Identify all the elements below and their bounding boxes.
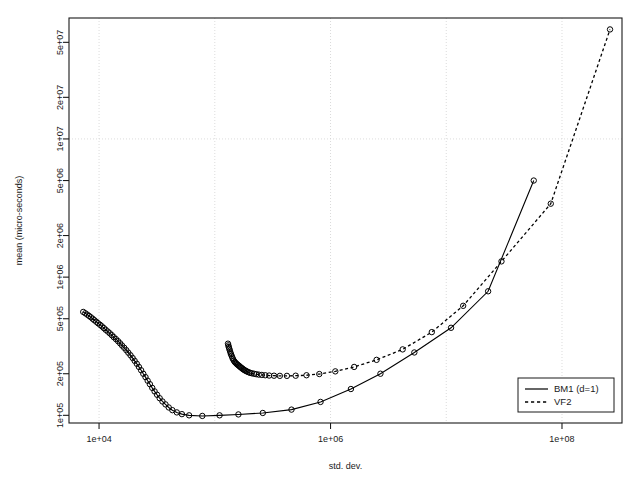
y-tick-label-7: 2e+07 xyxy=(55,85,65,110)
x-tick-label-2: 1e+08 xyxy=(549,434,574,444)
y-tick-label-0: 1e+05 xyxy=(55,403,65,428)
legend[interactable]: BM1 (d=1)VF2 xyxy=(518,378,614,412)
y-tick-label-2: 5e+05 xyxy=(55,306,65,331)
scatter-plot: 1e+052e+055e+051e+062e+065e+061e+072e+07… xyxy=(0,0,644,491)
x-axis-label: std. dev. xyxy=(329,461,362,471)
x-tick-label-1: 1e+06 xyxy=(318,434,343,444)
legend-label-0[interactable]: BM1 (d=1) xyxy=(554,383,599,394)
y-tick-label-6: 1e+07 xyxy=(55,126,65,151)
y-tick-label-5: 5e+06 xyxy=(55,168,65,193)
legend-label-1[interactable]: VF2 xyxy=(554,396,571,407)
chart-container: 1e+052e+055e+051e+062e+065e+061e+072e+07… xyxy=(0,0,644,491)
y-tick-label-1: 2e+05 xyxy=(55,361,65,386)
y-tick-label-4: 2e+06 xyxy=(55,223,65,248)
plot-background xyxy=(0,0,644,491)
x-tick-label-0: 1e+04 xyxy=(86,434,111,444)
y-tick-label-8: 5e+07 xyxy=(55,30,65,55)
y-tick-label-3: 1e+06 xyxy=(55,264,65,289)
y-axis-label: mean (micro-seconds) xyxy=(14,176,24,266)
